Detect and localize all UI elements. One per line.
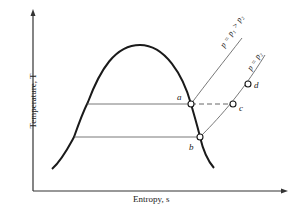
point-c-label: c: [239, 103, 243, 113]
point-b-label: b: [189, 142, 194, 152]
axes: [31, 9, 289, 194]
x-axis-arrow-icon: [281, 189, 288, 194]
point-a-label: a: [177, 92, 182, 102]
point-d-marker: [245, 81, 251, 87]
isobar-p1-superheated: [191, 38, 242, 104]
y-axis-arrow-icon: [31, 9, 36, 16]
x-axis-label: Entropy, s: [133, 194, 169, 204]
point-d-label: d: [254, 80, 259, 90]
point-c-marker: [230, 101, 236, 107]
y-axis-label: Temperature, T: [28, 56, 38, 146]
point-a-marker: [188, 101, 194, 107]
t-s-diagram: [0, 0, 290, 212]
point-b-marker: [197, 134, 203, 140]
